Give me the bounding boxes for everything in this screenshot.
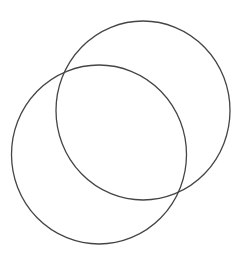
venn-diagram-svg [0, 0, 246, 264]
circle-top-right [56, 21, 230, 200]
venn-diagram [0, 0, 246, 264]
circle-bottom-left [12, 65, 187, 244]
